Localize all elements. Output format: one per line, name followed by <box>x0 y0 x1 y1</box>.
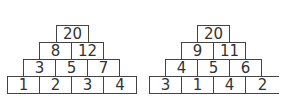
pyramid-cell: 6 <box>229 59 262 77</box>
pyramid-cell: 8 <box>39 42 72 60</box>
pyramid-cell: 9 <box>181 42 214 60</box>
pyramid-cell: 12 <box>71 42 104 60</box>
pyramid-cell: 1 <box>7 76 40 94</box>
pyramid-cell: 3 <box>71 76 104 94</box>
pyramid-cell: 3 <box>149 76 182 94</box>
pyramid-cell: 4 <box>103 76 137 94</box>
number-pyramids: 20 8 12 3 5 7 1 2 3 4 20 9 11 4 5 6 3 1 … <box>0 0 282 107</box>
pyramid-cell: 4 <box>165 59 198 77</box>
pyramid-cell: 4 <box>213 76 246 94</box>
pyramid-cell: 5 <box>197 59 230 77</box>
pyramid-cell: 5 <box>55 59 88 77</box>
pyramid-cell: 20 <box>197 25 230 43</box>
pyramid-cell: 1 <box>181 76 214 94</box>
pyramid-cell: 20 <box>56 25 89 43</box>
pyramid-cell: 7 <box>87 59 120 77</box>
pyramid-cell: 2 <box>245 76 279 94</box>
pyramid-cell: 3 <box>23 59 56 77</box>
pyramid-cell: 2 <box>39 76 72 94</box>
pyramid-cell: 11 <box>213 42 246 60</box>
